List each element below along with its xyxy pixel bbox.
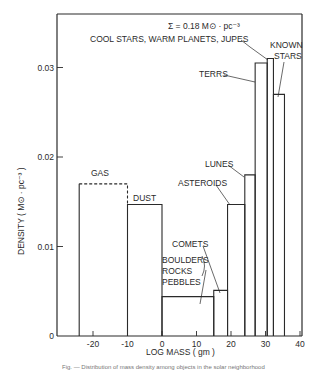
- mass-density-chart: 00.010.020.03 -20-10010203040 Σ = 0.18 M…: [0, 0, 314, 372]
- label-stars: STARS: [274, 51, 302, 61]
- leader-asteroids: [216, 185, 230, 205]
- label-rocks: ROCKS: [162, 266, 193, 276]
- leader-terrs: [224, 75, 255, 82]
- bar-asteroids: [228, 204, 245, 336]
- label-dust: DUST: [133, 193, 156, 203]
- bar-terrs: [255, 63, 267, 336]
- x-tick-label: 30: [261, 339, 271, 349]
- x-tick-label: 40: [295, 339, 305, 349]
- y-tick-label: 0.03: [37, 63, 54, 73]
- bars: [79, 59, 284, 336]
- bar-jupes: [267, 59, 273, 336]
- bar-dust: [128, 204, 163, 336]
- x-tick-label: 20: [226, 339, 236, 349]
- bar-lunes: [245, 175, 255, 336]
- y-tick-label: 0.02: [37, 152, 54, 162]
- label-known: KNOWN: [270, 40, 303, 50]
- caption-fragment: Fig. — Distribution of mass density amon…: [62, 364, 265, 370]
- leader-jupes: [241, 40, 268, 60]
- y-axis-label: DENSITY ( M⊙ · pc⁻³ ): [16, 167, 26, 255]
- x-axis-label: LOG MASS ( gm ): [146, 347, 215, 357]
- label-terrs: TERRS: [199, 69, 228, 79]
- x-tick-label: -10: [121, 339, 134, 349]
- y-tick-label: 0: [49, 331, 54, 341]
- leader-pebbles: [200, 270, 206, 304]
- label-cool-stars: COOL STARS, WARM PLANETS, JUPES: [90, 34, 249, 44]
- leader-lunes: [228, 165, 244, 177]
- sum-annotation: Σ = 0.18 M⊙ · pc⁻³: [168, 21, 240, 31]
- bar-known-stars: [273, 94, 284, 336]
- leader-stars: [278, 62, 284, 97]
- label-asteroids: ASTEROIDS: [178, 178, 227, 188]
- bar-boulders-rocks-pebbles: [162, 297, 214, 336]
- leader-comets: [203, 246, 220, 293]
- label-pebbles: PEBBLES: [162, 277, 201, 287]
- bar-comets: [214, 290, 228, 336]
- bar-gas-dashed: [79, 184, 127, 205]
- label-gas: GAS: [91, 168, 109, 178]
- x-tick-label: -20: [87, 339, 100, 349]
- label-lunes: LUNES: [205, 159, 234, 169]
- y-tick-label: 0.01: [37, 242, 54, 252]
- y-ticks: 00.010.020.03: [37, 63, 63, 342]
